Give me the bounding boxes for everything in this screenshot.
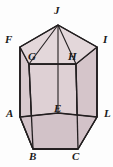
vertex-label-G: G: [28, 51, 36, 62]
vertex-label-J: J: [54, 5, 60, 16]
vertex-label-B: B: [29, 151, 36, 162]
vertex-label-I: I: [103, 34, 107, 45]
vertex-label-A: A: [6, 108, 13, 119]
vertex-label-E: E: [54, 103, 61, 114]
vertex-label-F: F: [5, 34, 12, 45]
pentagonal-prism-figure: J F I G H A E L B C: [0, 0, 113, 167]
vertex-label-H: H: [68, 51, 77, 62]
prism-drawing: [0, 0, 113, 167]
vertex-label-D: L: [104, 108, 111, 119]
vertex-label-C: C: [72, 151, 79, 162]
